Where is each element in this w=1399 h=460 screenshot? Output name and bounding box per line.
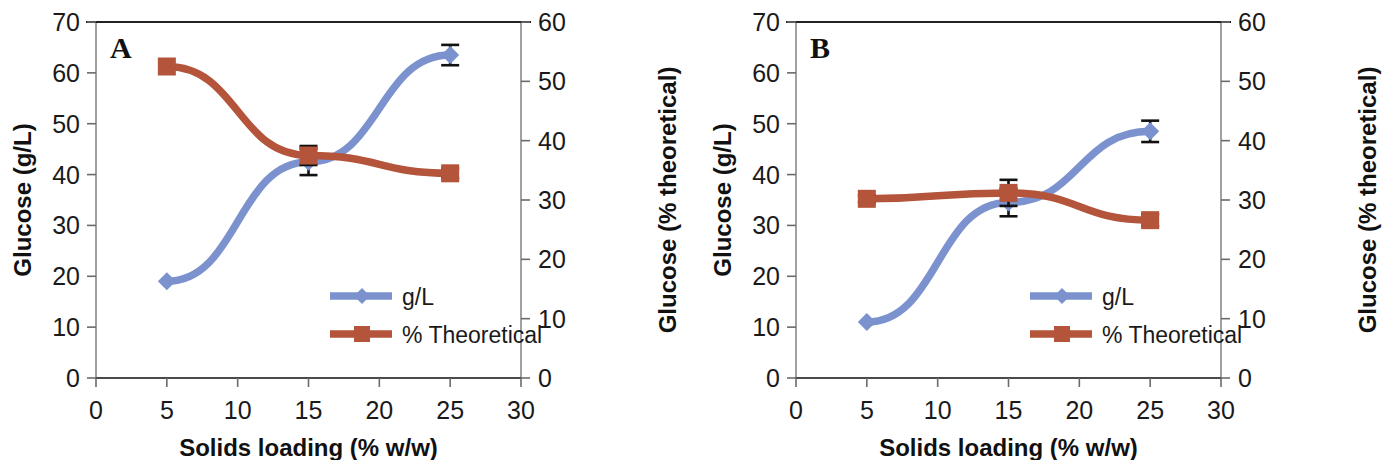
panel-b-marker-diamond <box>1141 122 1159 140</box>
panel-b-y2-tick-label: 50 <box>1238 67 1266 95</box>
panel-b-y-axis-title: Glucose (g/L) <box>709 123 736 276</box>
panel-a-legend-marker-diamond <box>354 288 370 304</box>
panel-a-marker-square <box>300 147 318 165</box>
panel-b-y-tick-label: 10 <box>752 313 780 341</box>
panel-b-x-tick-label: 0 <box>789 396 803 424</box>
panel-b-y2-tick-label: 20 <box>1238 245 1266 273</box>
panel-b-content: 0102030405060700102030405060051015202530… <box>709 8 1381 460</box>
panel-b-marker-square <box>858 190 876 208</box>
panel-a-x-tick-label: 0 <box>89 396 103 424</box>
panel-a-x-tick-label: 20 <box>365 396 393 424</box>
panel-b-marker-diamond <box>858 313 876 331</box>
panel-b-y-tick-label: 50 <box>752 110 780 138</box>
panel-a-x-tick-label: 5 <box>160 396 174 424</box>
figure-two-panel-chart: 0102030405060700102030405060051015202530… <box>0 0 1399 460</box>
panel-a-x-tick-label: 25 <box>436 396 464 424</box>
panel-a-y-tick-label: 40 <box>52 161 80 189</box>
panel-b-legend: g/L% Theoretical <box>1030 284 1242 348</box>
panel-a-y-tick-label: 60 <box>52 59 80 87</box>
panel-b-y-tick-label: 60 <box>752 59 780 87</box>
panel-b-x-tick-label: 25 <box>1136 396 1164 424</box>
panel-b-y-tick-label: 0 <box>766 364 780 392</box>
panel-a-y-tick-label: 50 <box>52 110 80 138</box>
panel-a-legend-marker-square <box>354 326 370 342</box>
panel-b-x-tick-label: 30 <box>1207 396 1235 424</box>
panel-a-y-tick-label: 0 <box>66 364 80 392</box>
panel-b-svg: 0102030405060700102030405060051015202530… <box>700 0 1399 460</box>
panel-a-y-tick-label: 70 <box>52 8 80 36</box>
panel-b-x-tick-label: 10 <box>924 396 952 424</box>
panel-a-y2-tick-label: 50 <box>538 67 566 95</box>
chart-panel-b: 0102030405060700102030405060051015202530… <box>700 0 1399 460</box>
panel-a-marker-square <box>441 164 459 182</box>
panel-b-y2-tick-label: 0 <box>1238 364 1252 392</box>
panel-a-y-axis-title: Glucose (g/L) <box>9 123 36 276</box>
panel-a-marker-diamond <box>158 272 176 290</box>
panel-a-y2-tick-label: 20 <box>538 245 566 273</box>
panel-a-legend: g/L% Theoretical <box>330 284 542 348</box>
panel-b-y-tick-label: 20 <box>752 262 780 290</box>
panel-b-y-tick-label: 40 <box>752 161 780 189</box>
chart-panel-a: 0102030405060700102030405060051015202530… <box>0 0 699 460</box>
panel-a-marker-diamond <box>441 46 459 64</box>
panel-a-y2-axis-title: Glucose (% theoretical) <box>654 67 681 334</box>
panel-b-x-axis-title: Solids loading (% w/w) <box>879 434 1138 460</box>
panel-b-x-tick-label: 20 <box>1065 396 1093 424</box>
panel-b-y2-tick-label: 40 <box>1238 127 1266 155</box>
panel-a-content: 0102030405060700102030405060051015202530… <box>9 8 681 460</box>
panel-a-x-tick-label: 15 <box>295 396 323 424</box>
panel-b-panel-letter: B <box>810 31 830 64</box>
panel-a-y-tick-label: 20 <box>52 262 80 290</box>
panel-a-panel-letter: A <box>110 31 132 64</box>
panel-b-legend-marker-diamond <box>1054 288 1070 304</box>
panel-a-y-tick-label: 10 <box>52 313 80 341</box>
panel-a-x-tick-label: 10 <box>224 396 252 424</box>
panel-a-x-tick-label: 30 <box>507 396 535 424</box>
panel-b-legend-label-theoretical: % Theoretical <box>1102 322 1242 348</box>
panel-a-marker-square <box>158 58 176 76</box>
panel-b-legend-marker-square <box>1054 326 1070 342</box>
panel-b-y-tick-label: 70 <box>752 8 780 36</box>
panel-b-y-tick-label: 30 <box>752 211 780 239</box>
panel-b-marker-square <box>1000 184 1018 202</box>
panel-a-y2-tick-label: 30 <box>538 186 566 214</box>
panel-b-y2-axis-title: Glucose (% theoretical) <box>1354 67 1381 334</box>
panel-a-y-tick-label: 30 <box>52 211 80 239</box>
panel-a-y2-tick-label: 60 <box>538 8 566 36</box>
panel-a-svg: 0102030405060700102030405060051015202530… <box>0 0 699 460</box>
panel-a-legend-label-gl: g/L <box>402 284 434 310</box>
panel-b-x-tick-label: 5 <box>860 396 874 424</box>
panel-b-y2-tick-label: 30 <box>1238 186 1266 214</box>
panel-a-y2-tick-label: 0 <box>538 364 552 392</box>
panel-a-legend-label-theoretical: % Theoretical <box>402 322 542 348</box>
panel-b-y2-tick-label: 60 <box>1238 8 1266 36</box>
panel-b-legend-label-gl: g/L <box>1102 284 1134 310</box>
panel-a-y2-tick-label: 40 <box>538 127 566 155</box>
panel-b-marker-square <box>1141 211 1159 229</box>
panel-a-x-axis-title: Solids loading (% w/w) <box>179 434 438 460</box>
panel-b-x-tick-label: 15 <box>995 396 1023 424</box>
